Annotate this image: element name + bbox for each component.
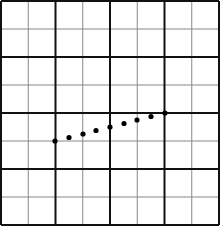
grid-diagram — [0, 0, 224, 234]
data-point — [93, 128, 98, 133]
data-point — [121, 121, 126, 126]
data-point — [148, 114, 153, 119]
data-point — [107, 124, 112, 129]
data-point — [66, 135, 71, 140]
data-point — [80, 131, 85, 136]
data-point — [134, 117, 139, 122]
data-point — [52, 138, 57, 143]
data-point — [162, 110, 167, 115]
major-grid-lines — [1, 1, 219, 225]
